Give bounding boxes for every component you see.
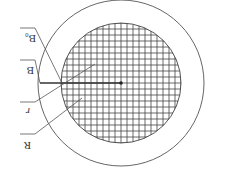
hatched-core	[0, 0, 226, 181]
svg-text:B: B	[27, 65, 34, 77]
svg-text:B₀: B₀	[25, 33, 36, 45]
svg-text:R: R	[23, 140, 31, 152]
label-r: r	[25, 106, 30, 118]
svg-text:r: r	[25, 106, 30, 118]
cross-section-diagram: B₀ B r R	[0, 0, 226, 181]
center-dot	[119, 81, 123, 85]
label-R: R	[23, 140, 31, 152]
label-b: B	[27, 65, 34, 77]
label-b0: B₀	[25, 33, 36, 45]
